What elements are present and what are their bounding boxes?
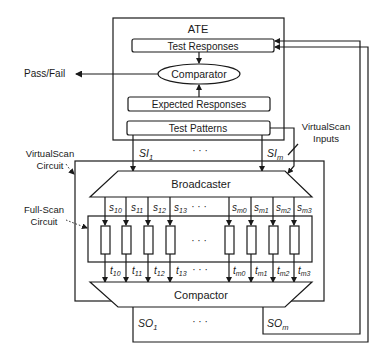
svg-text:sm2: sm2 — [276, 202, 291, 214]
fullscan-circuit-pointer — [66, 220, 87, 228]
svg-text:sm3: sm3 — [297, 202, 312, 214]
virtualscan-inputs-line2: Inputs — [313, 133, 339, 144]
so1-label: SO1 — [138, 317, 157, 332]
svg-text:t13: t13 — [176, 265, 187, 277]
expected-responses-label: Expected Responses — [152, 99, 247, 110]
bus-slash — [288, 144, 298, 155]
svg-text:tm0: tm0 — [233, 265, 246, 277]
virtualscan-diagram: ATE Test Responses Comparator Pass/Fail … — [0, 0, 386, 358]
svg-text:tm2: tm2 — [277, 265, 290, 277]
virtualscan-circuit-pointer — [66, 164, 74, 174]
si1-label: SI1 — [139, 147, 153, 162]
chain-input-labels: s10 s11 s12 s13 sm0 sm1 sm2 sm3 — [109, 202, 312, 214]
pass-fail-label: Pass/Fail — [24, 68, 65, 79]
svg-text:s12: s12 — [153, 202, 166, 214]
chain-input-ellipsis: · · · — [191, 201, 207, 212]
chain-ellipsis: · · · — [191, 235, 207, 246]
fullscan-circuit-line1: Full-Scan — [24, 204, 64, 215]
chain-output-ellipsis: · · · — [192, 264, 208, 275]
virtualscan-circuit-line2: Circuit — [37, 160, 64, 171]
ate-title: ATE — [188, 23, 209, 35]
svg-text:t12: t12 — [154, 265, 165, 277]
svg-text:s10: s10 — [109, 202, 122, 214]
svg-text:sm0: sm0 — [232, 202, 247, 214]
comparator-label: Comparator — [171, 68, 227, 80]
test-responses-label: Test Responses — [167, 41, 238, 52]
virtualscan-circuit-line1: VirtualScan — [26, 148, 74, 159]
chain-output-labels: t10 t11 t12 t13 tm0 tm1 tm2 tm3 — [110, 265, 311, 277]
broadcaster-label: Broadcaster — [171, 178, 231, 190]
svg-text:s11: s11 — [131, 202, 143, 214]
si-ellipsis: · · · — [192, 145, 208, 156]
sim-label: SIm — [267, 147, 283, 162]
fullscan-circuit-line2: Circuit — [31, 216, 58, 227]
svg-text:tm1: tm1 — [255, 265, 268, 277]
svg-text:t11: t11 — [132, 265, 142, 277]
svg-text:t10: t10 — [110, 265, 121, 277]
so-ellipsis: · · · — [192, 316, 208, 327]
test-patterns-label: Test Patterns — [169, 123, 227, 134]
svg-text:sm1: sm1 — [254, 202, 269, 214]
virtualscan-inputs-line1: VirtualScan — [302, 121, 350, 132]
svg-text:s13: s13 — [174, 202, 187, 214]
compactor-label: Compactor — [174, 289, 228, 301]
som-label: SOm — [267, 317, 288, 332]
svg-text:tm3: tm3 — [298, 265, 311, 277]
